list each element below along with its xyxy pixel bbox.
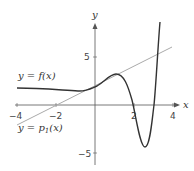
x-tick-neg2: −2 (49, 111, 62, 121)
f-label: y = f(x) (17, 70, 56, 81)
y-tick-5: 5 (84, 52, 90, 62)
y-axis-label: y (91, 9, 98, 20)
plot: −4 −2 2 4 5 −5 x y y = f(x) y = p1(x) (0, 0, 194, 171)
p1-label: y = p1(x) (17, 122, 63, 135)
p1-line (17, 47, 172, 125)
y-tick-neg5: −5 (78, 149, 91, 159)
x-tick-4: 4 (170, 111, 176, 121)
x-axis-arrow-icon (174, 103, 180, 108)
x-axis-label: x (183, 99, 189, 110)
x-tick-neg4: −4 (9, 111, 23, 121)
y-axis-arrow-icon (93, 23, 98, 29)
